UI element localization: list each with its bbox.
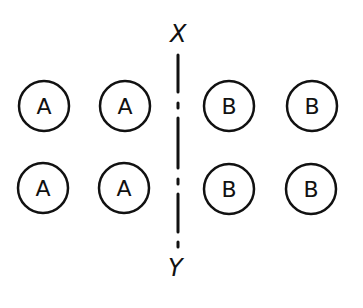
circle-b-4-label: B (303, 177, 318, 202)
diagram-svg: X Y A A A A B B B B (0, 0, 363, 308)
circle-a-1-label: A (36, 94, 51, 119)
circle-a-4-label: A (116, 176, 131, 201)
circle-b-1-label: B (221, 94, 236, 119)
circle-a-2-label: A (117, 94, 132, 119)
circle-b-2-label: B (304, 94, 319, 119)
axis-label-y: Y (168, 254, 185, 282)
circle-a-3-label: A (35, 176, 50, 201)
circle-b-3-label: B (221, 177, 236, 202)
symmetry-diagram: X Y A A A A B B B B (0, 0, 363, 308)
axis-label-x: X (168, 20, 187, 48)
